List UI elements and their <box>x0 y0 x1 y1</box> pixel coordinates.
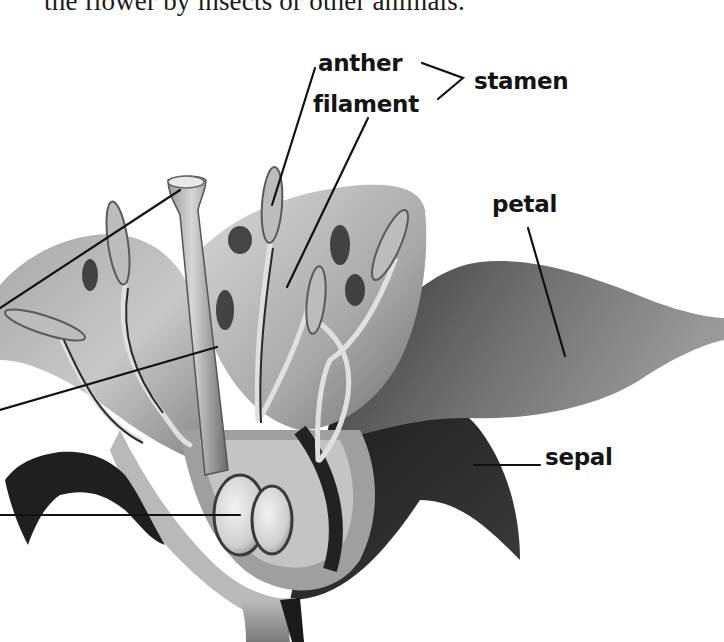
label-petal: petal <box>492 191 557 217</box>
stem <box>240 598 304 642</box>
label-anther: anther <box>318 50 402 76</box>
label-sepal: sepal <box>545 444 613 470</box>
label-filament: filament <box>313 91 419 117</box>
leader-anther <box>272 68 315 205</box>
label-stamen: stamen <box>474 68 568 94</box>
stamen-bracket <box>422 63 463 99</box>
